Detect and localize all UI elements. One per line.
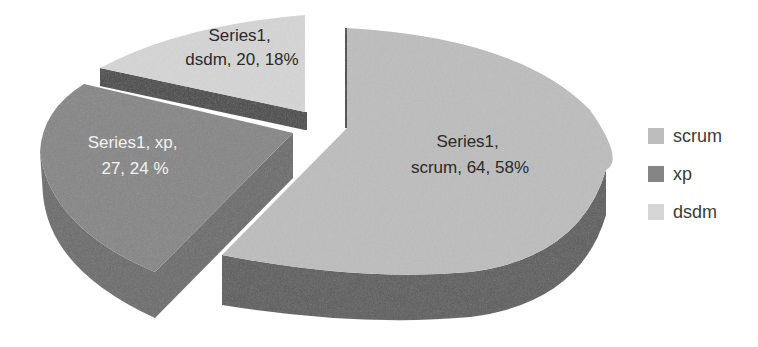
legend-label-dsdm: dsdm bbox=[673, 202, 717, 223]
legend-label-xp: xp bbox=[673, 164, 692, 185]
legend-label-scrum: scrum bbox=[673, 126, 722, 147]
legend-swatch-dsdm bbox=[648, 204, 664, 220]
label-scrum-line1: Series1, bbox=[436, 132, 498, 151]
label-xp-line1: Series1, xp, bbox=[88, 133, 178, 152]
legend-item-xp[interactable]: xp bbox=[648, 155, 722, 193]
legend-swatch-xp bbox=[648, 166, 664, 182]
label-xp-line2: 27, 24 % bbox=[101, 159, 168, 178]
label-dsdm-line1: Series1, bbox=[208, 26, 270, 45]
legend-item-dsdm[interactable]: dsdm bbox=[648, 193, 722, 231]
legend-item-scrum[interactable]: scrum bbox=[648, 117, 722, 155]
legend: scrum xp dsdm bbox=[648, 117, 722, 231]
pie-chart: Series1, scrum, 64, 58% Series1, xp, 27,… bbox=[0, 0, 758, 347]
label-scrum-line2: scrum, 64, 58% bbox=[411, 158, 529, 177]
legend-swatch-scrum bbox=[648, 128, 664, 144]
label-dsdm-line2: dsdm, 20, 18% bbox=[185, 50, 298, 69]
slice-dsdm-side-right bbox=[305, 112, 307, 130]
slice-scrum-inner-edge bbox=[345, 28, 347, 128]
